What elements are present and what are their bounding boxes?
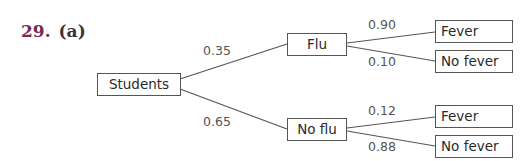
- node-no-flu: No flu: [287, 118, 347, 141]
- prob-flu-fever: 0.90: [368, 19, 396, 32]
- node-flu-no-fever: No fever: [435, 50, 513, 73]
- edge-students-flu: [180, 44, 287, 79]
- prob-no-flu: 0.65: [203, 116, 231, 129]
- node-label: Fever: [441, 25, 478, 39]
- node-noflu-fever: Fever: [435, 105, 513, 128]
- edge-students-noflu: [180, 89, 287, 129]
- node-label: Flu: [307, 38, 327, 52]
- prob-noflu-fever: 0.12: [368, 105, 396, 118]
- node-label: No fever: [441, 140, 499, 154]
- node-flu: Flu: [287, 33, 347, 56]
- edge-noflu-fever: [347, 117, 435, 128]
- node-noflu-no-fever: No fever: [435, 135, 513, 158]
- node-students: Students: [97, 73, 181, 96]
- node-label: No flu: [297, 123, 337, 137]
- node-label: No fever: [441, 55, 499, 69]
- edge-flu-fever: [347, 32, 435, 43]
- prob-noflu-no-fever: 0.88: [368, 141, 396, 154]
- node-label: Fever: [441, 110, 478, 124]
- prob-flu-no-fever: 0.10: [368, 56, 396, 69]
- node-label: Students: [109, 78, 169, 92]
- node-flu-fever: Fever: [435, 20, 513, 43]
- prob-flu: 0.35: [203, 45, 231, 58]
